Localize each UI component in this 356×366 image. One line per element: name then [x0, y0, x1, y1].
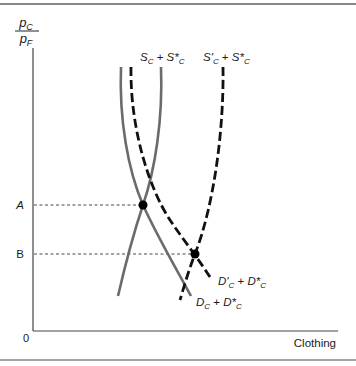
y-axis-label: pC pF: [15, 15, 39, 48]
demand-original-label: DC + D*C: [196, 296, 242, 311]
demand-shifted-curve: [131, 67, 210, 277]
x-axis-label: Clothing: [294, 337, 336, 349]
y-label-denominator-sub: F: [27, 38, 33, 48]
relative-supply-demand-diagram: pC pF 0 Clothing A B SC + S*C S'C + S*C …: [0, 0, 356, 366]
y-label-numerator: p: [18, 15, 26, 30]
supply-shifted-label: S'C + S*C: [203, 51, 250, 66]
y-label-denominator: p: [19, 31, 27, 46]
origin-label: 0: [23, 332, 29, 344]
price-level-b-label: B: [16, 248, 24, 260]
supply-original-label: SC + S*C: [140, 51, 185, 66]
svg-text:pC: pC: [18, 15, 33, 32]
supply-original-curve: [118, 67, 161, 296]
svg-text:pF: pF: [19, 31, 33, 48]
equilibrium-a-point: [139, 201, 148, 210]
equilibrium-b-point: [191, 250, 200, 259]
demand-shifted-label: D'C + D*C: [218, 275, 266, 290]
price-level-a-label: A: [15, 199, 24, 211]
